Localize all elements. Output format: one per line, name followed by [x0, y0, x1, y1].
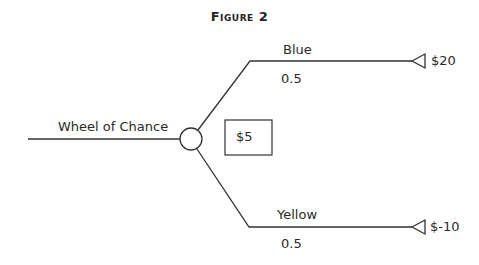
branch-probability-blue: 0.5 [281, 71, 302, 86]
payoff-yellow: $-10 [430, 219, 460, 234]
terminal-node-icon-yellow [412, 220, 425, 234]
payoff-blue: $20 [431, 53, 456, 68]
terminal-node-icon-blue [412, 54, 425, 68]
branch-label-yellow: Yellow [277, 207, 317, 222]
branch-probability-yellow: 0.5 [281, 236, 302, 251]
root-label: Wheel of Chance [58, 119, 168, 134]
expected-value-label: $5 [236, 129, 253, 144]
chance-node-icon [180, 128, 202, 150]
branch-label-blue: Blue [283, 42, 312, 57]
